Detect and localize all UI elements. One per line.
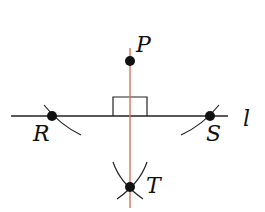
label-S: S (206, 121, 221, 146)
label-P: P (135, 32, 152, 57)
label-T: T (146, 173, 163, 198)
arc-T-right (117, 162, 147, 199)
label-line-l: l (243, 106, 250, 131)
arc-T-left (113, 162, 143, 199)
point-S (205, 111, 215, 121)
point-T (125, 182, 135, 192)
label-R: R (32, 121, 50, 146)
point-R (47, 111, 57, 121)
perpendicular-construction-diagram: P R S T l (0, 0, 265, 212)
point-P (125, 56, 135, 66)
